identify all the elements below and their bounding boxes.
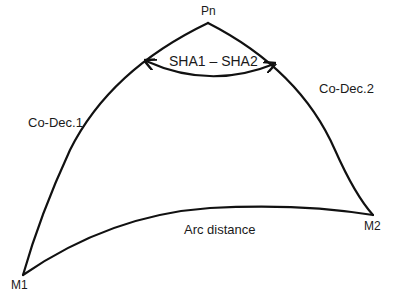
side-arc-distance [23,207,373,275]
label-pn: Pn [201,4,216,18]
label-co-dec-1: Co-Dec.1 [28,115,83,130]
side-co-dec-2 [208,23,373,215]
spherical-triangle-diagram: Pn SHA1 – SHA2 Co-Dec.1 Co-Dec.2 Arc dis… [0,0,395,301]
label-m2: M2 [364,219,381,233]
label-m1: M1 [11,278,28,292]
label-sha-difference: SHA1 – SHA2 [169,53,258,69]
label-co-dec-2: Co-Dec.2 [319,81,374,96]
label-arc-distance: Arc distance [184,222,256,237]
